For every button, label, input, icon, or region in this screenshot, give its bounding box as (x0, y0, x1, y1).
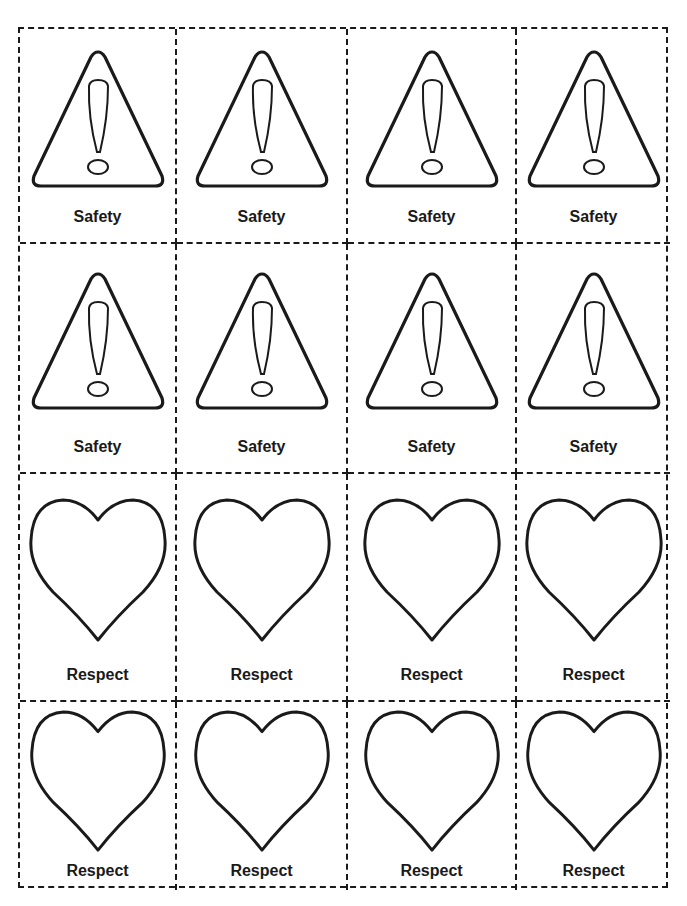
card-label: Safety (237, 202, 285, 242)
card-safety: Safety (517, 29, 670, 244)
card-label: Safety (407, 432, 455, 472)
card-label: Safety (569, 432, 617, 472)
card-label: Safety (407, 202, 455, 242)
heart-icon (177, 474, 346, 660)
warning-triangle-icon (20, 29, 175, 202)
heart-icon (517, 702, 670, 858)
card-safety: Safety (517, 244, 670, 474)
card-label: Respect (66, 858, 128, 890)
card-respect: Respect (177, 474, 348, 702)
card-label: Respect (230, 660, 292, 700)
card-safety: Safety (177, 29, 348, 244)
card-safety: Safety (177, 244, 348, 474)
card-respect: Respect (517, 702, 670, 890)
cut-out-card-sheet: Safety Safety Safety Safety Safety Safet… (18, 27, 668, 888)
warning-triangle-icon (177, 244, 346, 432)
heart-icon (20, 474, 175, 660)
card-label: Safety (237, 432, 285, 472)
card-label: Respect (66, 660, 128, 700)
card-label: Safety (73, 432, 121, 472)
card-respect: Respect (20, 474, 177, 702)
card-label: Safety (569, 202, 617, 242)
heart-icon (517, 474, 670, 660)
heart-icon (177, 702, 346, 858)
warning-triangle-icon (348, 244, 515, 432)
heart-icon (348, 474, 515, 660)
card-safety: Safety (20, 29, 177, 244)
warning-triangle-icon (20, 244, 175, 432)
card-respect: Respect (348, 474, 517, 702)
card-label: Safety (73, 202, 121, 242)
card-respect: Respect (20, 702, 177, 890)
card-label: Respect (400, 858, 462, 890)
card-safety: Safety (348, 244, 517, 474)
warning-triangle-icon (348, 29, 515, 202)
card-respect: Respect (177, 702, 348, 890)
card-label: Respect (230, 858, 292, 890)
card-label: Respect (400, 660, 462, 700)
warning-triangle-icon (517, 244, 670, 432)
card-label: Respect (562, 858, 624, 890)
card-safety: Safety (20, 244, 177, 474)
warning-triangle-icon (177, 29, 346, 202)
heart-icon (20, 702, 175, 858)
heart-icon (348, 702, 515, 858)
card-safety: Safety (348, 29, 517, 244)
card-respect: Respect (517, 474, 670, 702)
card-respect: Respect (348, 702, 517, 890)
warning-triangle-icon (517, 29, 670, 202)
card-label: Respect (562, 660, 624, 700)
